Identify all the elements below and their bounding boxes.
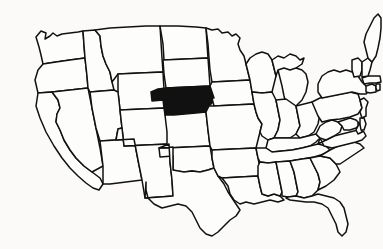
state-pennsylvania[interactable] bbox=[312, 92, 362, 122]
state-arkansas[interactable] bbox=[212, 148, 260, 178]
state-delaware[interactable] bbox=[360, 118, 366, 130]
us-map-graphic bbox=[0, 0, 383, 249]
state-rhode-island[interactable] bbox=[376, 84, 380, 91]
state-kansas[interactable] bbox=[165, 112, 210, 148]
state-missouri[interactable] bbox=[206, 104, 262, 150]
state-south-dakota[interactable] bbox=[163, 58, 210, 88]
state-new-jersey[interactable] bbox=[360, 98, 368, 118]
state-minnesota[interactable] bbox=[206, 28, 250, 82]
state-connecticut[interactable] bbox=[366, 84, 376, 93]
state-wisconsin[interactable] bbox=[246, 52, 276, 93]
us-locator-map: Map of the contiguous United States Outl… bbox=[0, 0, 383, 249]
state-vermont[interactable] bbox=[352, 58, 362, 77]
state-north-dakota[interactable] bbox=[160, 26, 208, 60]
state-maine[interactable] bbox=[364, 14, 381, 62]
state-iowa[interactable] bbox=[210, 80, 254, 106]
state-oregon[interactable] bbox=[35, 58, 88, 93]
state-florida[interactable] bbox=[286, 194, 348, 236]
